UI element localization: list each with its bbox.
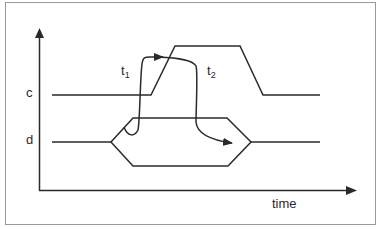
timing-diagram-canvas xyxy=(0,0,381,229)
signal-c-waveform xyxy=(52,46,320,95)
signal-c-label: c xyxy=(26,86,33,99)
t1-subscript: 1 xyxy=(125,70,130,80)
t1-arrow xyxy=(124,57,163,135)
x-axis-label: time xyxy=(272,197,297,210)
t2-label: t2 xyxy=(207,64,216,77)
x-axis-arrow-icon xyxy=(346,186,357,195)
t2-subscript: 2 xyxy=(211,70,216,80)
t1-label: t1 xyxy=(121,64,130,77)
signal-c-text: c xyxy=(26,85,33,100)
signal-d-label: d xyxy=(26,133,33,146)
t2-arrow xyxy=(158,57,232,143)
signal-d-text: d xyxy=(26,132,33,147)
y-axis-arrow-icon xyxy=(35,28,44,38)
